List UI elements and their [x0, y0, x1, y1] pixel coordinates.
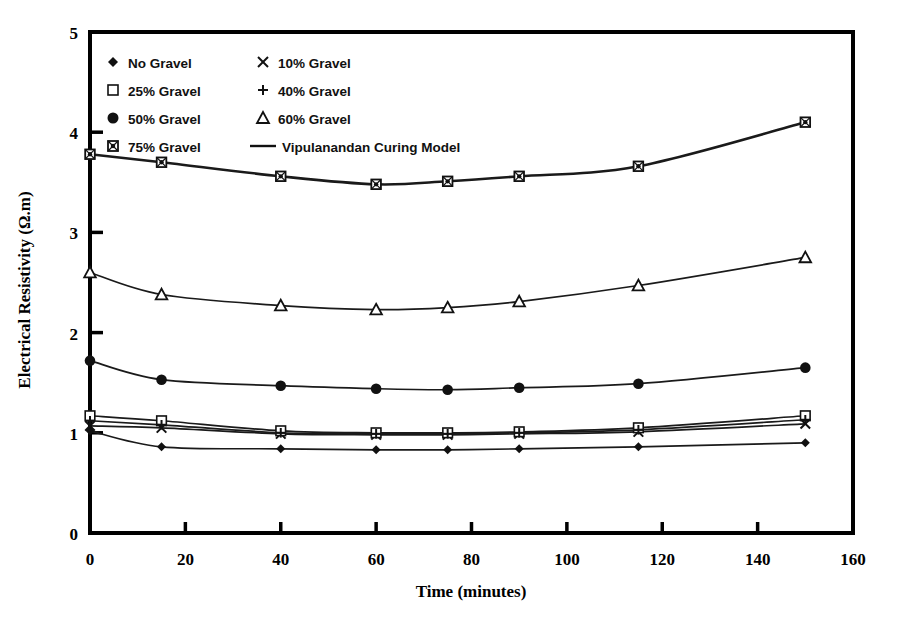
- data-point-filled-circle: [85, 355, 96, 366]
- legend-item-vipulanandan-curing-model[interactable]: Vipulanandan Curing Model: [250, 140, 460, 155]
- legend-item-label: 50% Gravel: [128, 112, 201, 127]
- y-tick-label: 0: [70, 525, 79, 544]
- legend-item-label: 10% Gravel: [278, 56, 351, 71]
- x-tick-label: 120: [650, 550, 676, 569]
- x-tick-label: 140: [745, 550, 771, 569]
- x-tick-label: 0: [86, 550, 95, 569]
- data-point-open-square: [108, 85, 118, 95]
- x-axis-title: Time (minutes): [416, 582, 527, 601]
- x-tick-label: 40: [272, 550, 289, 569]
- legend-item-label: No Gravel: [128, 56, 192, 71]
- legend-item-label: 75% Gravel: [128, 140, 201, 155]
- y-tick-label: 4: [70, 124, 79, 143]
- x-tick-label: 60: [368, 550, 385, 569]
- chart-figure: 012345 020406080100120140160 No Gravel10…: [0, 0, 898, 617]
- data-point-filled-circle: [514, 382, 525, 393]
- y-tick-label: 1: [70, 425, 79, 444]
- legend-item-label: 60% Gravel: [278, 112, 351, 127]
- x-tick-label: 100: [554, 550, 580, 569]
- data-point-filled-circle: [371, 383, 382, 394]
- legend-item-label: 40% Gravel: [278, 84, 351, 99]
- legend-item-label: 25% Gravel: [128, 84, 201, 99]
- x-tick-label: 160: [840, 550, 866, 569]
- y-tick-label: 2: [70, 325, 79, 344]
- y-tick-label: 5: [70, 24, 79, 43]
- data-point-filled-circle: [108, 113, 119, 124]
- x-tick-label: 80: [463, 550, 480, 569]
- x-tick-label: 20: [177, 550, 194, 569]
- data-point-filled-circle: [156, 374, 167, 385]
- electrical-resistivity-vs-time-chart: 012345 020406080100120140160 No Gravel10…: [0, 0, 898, 617]
- data-point-filled-circle: [633, 378, 644, 389]
- data-point-filled-circle: [275, 380, 286, 391]
- data-point-filled-circle: [800, 362, 811, 373]
- y-axis-title: Electrical Resistivity (Ω.m): [15, 191, 34, 388]
- legend-item-label: Vipulanandan Curing Model: [282, 140, 460, 155]
- data-point-filled-circle: [442, 384, 453, 395]
- y-tick-label: 3: [70, 224, 79, 243]
